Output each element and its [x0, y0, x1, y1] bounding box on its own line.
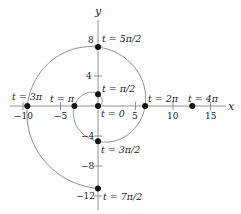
x-tick-label: 10 [167, 111, 179, 121]
y-tick-label: 8 [88, 35, 94, 45]
point-label-t-7pi-2: t = 7π/2 [103, 191, 142, 202]
x-tick-label: −10 [14, 111, 33, 121]
point-label-t-5pi-2: t = 5π/2 [102, 33, 141, 44]
x-tick-label: 5 [132, 111, 138, 121]
point-marker [95, 91, 101, 97]
point-marker [95, 44, 101, 50]
point-label-t-2pi: t = 2π [148, 93, 179, 104]
x-tick-label: −5 [54, 111, 68, 121]
y-tick-label: −4 [81, 131, 95, 141]
point-label-t-pi: t = π [50, 93, 75, 104]
point-label-t-4pi: t = 4π [188, 93, 219, 104]
point-marker [24, 103, 30, 109]
x-axis-label: x [228, 100, 235, 113]
y-tick-label: 4 [86, 71, 92, 81]
x-tick-label: 15 [205, 111, 217, 121]
y-tick-label: −8 [81, 161, 95, 171]
spiral-plot: x y −10 −5 5 10 15 8 4 −4 −8 −12 t = 0 t… [0, 0, 241, 214]
point-label-t-pi-2: t = π/2 [102, 83, 135, 94]
point-marker [95, 185, 101, 191]
point-label-t0: t = 0 [101, 108, 125, 119]
point-label-t-3pi-2: t = 3π/2 [101, 144, 140, 155]
point-label-t-3pi: t = 3π [12, 91, 43, 102]
y-tick-label: −12 [76, 191, 95, 201]
y-axis-label: y [94, 5, 102, 18]
